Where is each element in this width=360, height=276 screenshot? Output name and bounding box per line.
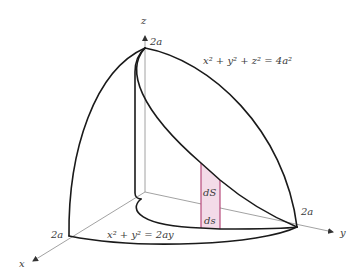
surface-area-diagram: z y x 2a 2a 2a x² + y² + z² = 4a² x² + y…: [0, 0, 360, 276]
y-axis-label: y: [339, 227, 346, 238]
sphere-xz-arc: [69, 48, 145, 236]
sphere-yz-arc: [145, 48, 297, 227]
x-axis-label: x: [19, 258, 25, 269]
x-intercept-label: 2a: [50, 229, 63, 240]
sphere-base-arc: [69, 227, 297, 244]
z-axis-label: z: [140, 15, 147, 26]
curves: [69, 48, 297, 244]
cylinder-equation: x² + y² = 2ay: [107, 229, 174, 240]
z-intercept-label: 2a: [149, 36, 162, 47]
sphere-equation: x² + y² + z² = 4a²: [203, 55, 292, 66]
y-intercept-label: 2a: [300, 206, 313, 217]
dS-label: dS: [203, 187, 216, 198]
labels: z y x 2a 2a 2a x² + y² + z² = 4a² x² + y…: [19, 15, 346, 269]
ds-label: ds: [204, 215, 216, 226]
x-axis: [33, 192, 145, 261]
